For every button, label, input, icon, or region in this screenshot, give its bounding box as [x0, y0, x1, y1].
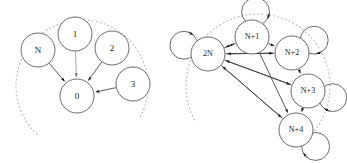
- edge-2-to-0: [88, 62, 101, 80]
- node-nplus3[interactable]: N+3: [291, 74, 325, 108]
- node-label-0: 0: [75, 91, 80, 101]
- node-3[interactable]: 3: [116, 67, 150, 101]
- node-2n[interactable]: 2N: [191, 37, 225, 71]
- edge-nplus1-to-2n: [226, 43, 236, 47]
- node-label-1: 1: [73, 29, 78, 39]
- node-2[interactable]: 2: [95, 31, 129, 65]
- edge-nplus2-to-nplus3: [299, 69, 301, 73]
- node-label-3: 3: [131, 79, 136, 89]
- self-loop-arrow-nplus3: [324, 109, 329, 111]
- edge-3-to-0: [96, 88, 116, 92]
- right-diagram: 2NN+1N+2N+3N+4: [170, 0, 347, 160]
- node-label-nplus1: N+1: [245, 32, 259, 41]
- node-label-n: N: [35, 45, 42, 55]
- node-nplus4[interactable]: N+4: [279, 113, 313, 147]
- node-label-2: 2: [110, 43, 115, 53]
- node-label-nplus2: N+2: [285, 48, 299, 57]
- edge-2n-to-nplus4: [221, 65, 281, 117]
- node-group-right: 2NN+1N+2N+3N+4: [191, 20, 325, 147]
- node-0[interactable]: 0: [60, 79, 94, 113]
- node-label-nplus3: N+3: [301, 86, 315, 95]
- node-label-nplus4: N+4: [289, 125, 303, 134]
- diagram-canvas: N1230 2NN+1N+2N+3N+4: [0, 0, 347, 163]
- node-label-2n: 2N: [203, 49, 213, 58]
- self-loop-arrow-nplus4: [303, 153, 307, 157]
- edge-nplus1-to-nplus2: [268, 44, 274, 46]
- node-group-left: N1230: [21, 17, 150, 113]
- node-nplus2[interactable]: N+2: [275, 36, 309, 70]
- self-loop-arrow-2n: [188, 32, 193, 35]
- edge-nplus3-to-nplus4: [302, 108, 303, 112]
- edge-1-to-0: [76, 51, 77, 76]
- edge-n-to-0: [49, 63, 64, 81]
- node-1[interactable]: 1: [58, 17, 92, 51]
- node-n[interactable]: N: [21, 33, 55, 67]
- node-nplus1[interactable]: N+1: [235, 20, 269, 54]
- left-diagram: N1230: [16, 17, 150, 134]
- figure-root: N1230 2NN+1N+2N+3N+4: [0, 0, 347, 163]
